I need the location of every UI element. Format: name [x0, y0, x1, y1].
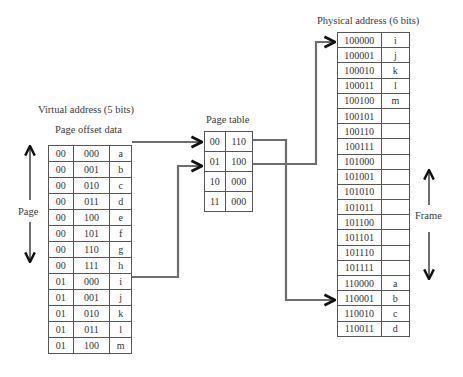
arrow-frame-100 — [253, 42, 335, 164]
arrow-page-01 — [132, 166, 202, 277]
mapping-arrows — [0, 0, 463, 377]
